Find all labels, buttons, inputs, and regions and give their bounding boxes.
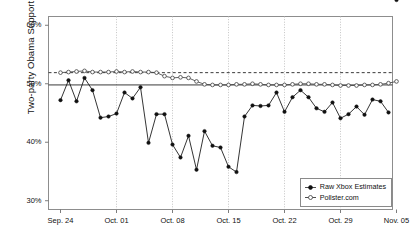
data-point-pollster bbox=[131, 70, 135, 74]
data-point-raw-xbox bbox=[387, 111, 391, 115]
data-point-raw-xbox bbox=[283, 110, 287, 114]
data-point-pollster bbox=[211, 83, 215, 87]
data-point-raw-xbox bbox=[107, 115, 111, 119]
x-tick-label: Oct. 01 bbox=[94, 216, 140, 225]
data-point-pollster bbox=[267, 83, 271, 87]
data-point-raw-xbox bbox=[235, 170, 239, 174]
data-point-pollster bbox=[115, 70, 119, 74]
data-point-raw-xbox bbox=[339, 117, 343, 121]
data-point-pollster bbox=[75, 70, 79, 74]
data-point-raw-xbox bbox=[251, 104, 255, 108]
data-point-pollster bbox=[299, 82, 303, 86]
data-point-pollster bbox=[171, 76, 175, 80]
data-point-pollster bbox=[139, 70, 143, 74]
data-point-pollster bbox=[91, 70, 95, 74]
data-point-pollster bbox=[371, 83, 375, 87]
data-point-pollster bbox=[59, 71, 63, 75]
data-point-pollster bbox=[307, 82, 311, 86]
data-point-raw-xbox bbox=[299, 88, 303, 92]
data-point-raw-xbox bbox=[131, 97, 135, 101]
data-point-pollster bbox=[387, 81, 391, 85]
x-tick-label: Sep. 24 bbox=[38, 216, 84, 225]
data-point-pollster bbox=[107, 70, 111, 74]
data-point-pollster bbox=[195, 80, 199, 84]
data-point-raw-xbox bbox=[211, 144, 215, 148]
data-point-raw-xbox bbox=[347, 112, 351, 116]
data-point-raw-xbox bbox=[363, 113, 367, 117]
data-point-raw-xbox bbox=[379, 100, 383, 104]
data-point-pollster bbox=[163, 74, 167, 78]
data-point-pollster bbox=[275, 83, 279, 87]
legend-item: Raw Xbox Estimates bbox=[305, 182, 386, 192]
y-tick-label: 60% bbox=[18, 20, 42, 29]
data-point-pollster bbox=[395, 80, 399, 84]
data-point-pollster bbox=[203, 82, 207, 86]
data-point-pollster bbox=[219, 83, 223, 87]
filled-circle-icon bbox=[305, 183, 316, 192]
x-tick-label: Oct. 29 bbox=[318, 216, 364, 225]
data-point-raw-xbox bbox=[331, 101, 335, 105]
data-point-pollster bbox=[187, 76, 191, 80]
data-point-pollster bbox=[147, 70, 151, 74]
open-circle-icon bbox=[305, 193, 316, 202]
data-point-raw-xbox bbox=[171, 143, 175, 147]
data-point-pollster bbox=[259, 82, 263, 86]
x-tick-label: Oct. 22 bbox=[262, 216, 308, 225]
data-point-pollster bbox=[283, 83, 287, 87]
data-point-pollster bbox=[339, 84, 343, 88]
data-point-raw-xbox bbox=[99, 116, 103, 120]
data-point-raw-xbox bbox=[155, 112, 159, 116]
data-point-raw-xbox bbox=[355, 105, 359, 109]
data-point-pollster bbox=[379, 82, 383, 86]
data-point-raw-xbox bbox=[147, 141, 151, 145]
data-point-raw-xbox bbox=[123, 91, 127, 95]
data-point-raw-xbox bbox=[315, 107, 319, 111]
data-point-pollster bbox=[155, 71, 159, 75]
data-point-raw-xbox bbox=[115, 112, 119, 116]
data-point-raw-xbox bbox=[219, 146, 223, 150]
y-tick-label: 50% bbox=[18, 79, 42, 88]
data-point-pollster bbox=[363, 83, 367, 87]
data-point-pollster bbox=[83, 69, 87, 73]
data-point-pollster bbox=[227, 83, 231, 87]
data-point-pollster bbox=[291, 82, 295, 86]
data-point-pollster bbox=[235, 82, 239, 86]
y-tick-label: 30% bbox=[18, 196, 42, 205]
data-point-pollster bbox=[315, 82, 319, 86]
data-point-raw-xbox bbox=[59, 98, 63, 102]
data-point-raw-xbox bbox=[195, 168, 199, 172]
data-point-raw-xbox bbox=[227, 165, 231, 169]
data-point-raw-xbox bbox=[243, 115, 247, 119]
data-point-pollster bbox=[67, 70, 71, 74]
data-point-raw-xbox bbox=[67, 79, 71, 83]
x-tick-label: Nov. 05 bbox=[374, 216, 413, 225]
data-point-pollster bbox=[331, 83, 335, 87]
data-point-raw-xbox bbox=[163, 112, 167, 116]
data-point-raw-xbox bbox=[291, 95, 295, 99]
data-point-raw-xbox bbox=[139, 86, 143, 90]
plot-area bbox=[0, 0, 413, 250]
data-point-pollster bbox=[323, 82, 327, 86]
data-point-raw-xbox bbox=[267, 104, 271, 108]
data-point-raw-xbox bbox=[75, 100, 79, 104]
data-point-raw-xbox bbox=[203, 129, 207, 133]
data-point-raw-xbox bbox=[323, 110, 327, 114]
y-tick-label: 40% bbox=[18, 137, 42, 146]
data-point-raw-xbox bbox=[275, 91, 279, 95]
data-point-raw-xbox bbox=[187, 134, 191, 138]
x-tick-label: Oct. 15 bbox=[206, 216, 252, 225]
obama-support-chart: Two-party Obama Support 30%40%50%60%Sep.… bbox=[0, 0, 413, 250]
x-tick-label: Oct. 08 bbox=[150, 216, 196, 225]
legend-label: Pollster.com bbox=[320, 193, 359, 203]
data-point-raw-xbox bbox=[307, 95, 311, 99]
data-point-pollster bbox=[99, 70, 103, 74]
data-point-pollster bbox=[243, 82, 247, 86]
data-point-pollster bbox=[179, 75, 183, 79]
legend-item: Pollster.com bbox=[305, 193, 386, 203]
data-point-pollster bbox=[347, 84, 351, 88]
data-point-pollster bbox=[123, 70, 127, 74]
data-point-raw-xbox bbox=[91, 88, 95, 92]
data-point-raw-xbox bbox=[371, 98, 375, 102]
data-point-raw-xbox bbox=[259, 104, 263, 108]
data-point-raw-xbox bbox=[179, 156, 183, 160]
